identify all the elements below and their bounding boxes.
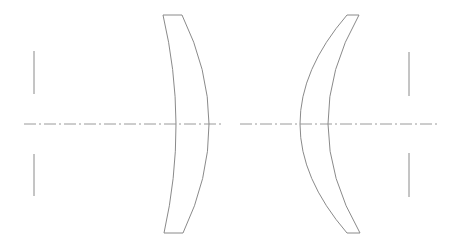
lens-diagram (0, 0, 459, 249)
optical-diagram-canvas (0, 0, 459, 249)
